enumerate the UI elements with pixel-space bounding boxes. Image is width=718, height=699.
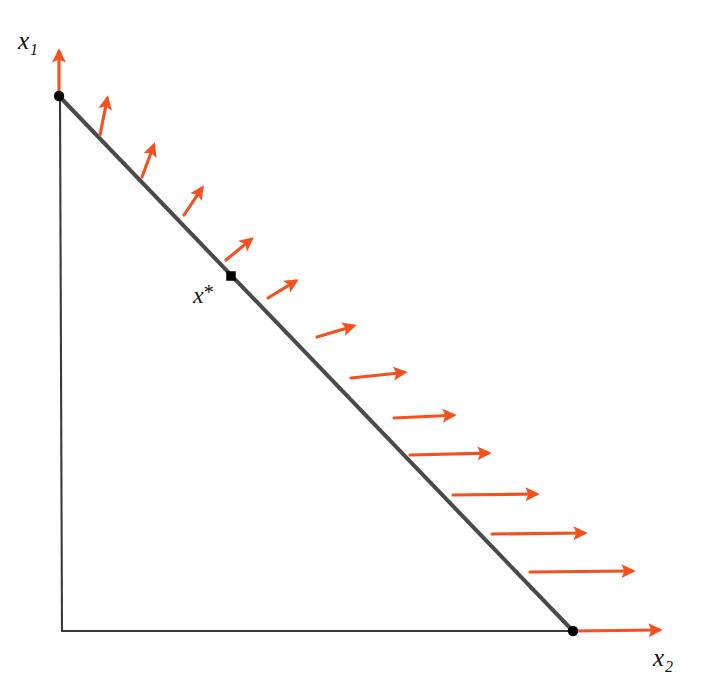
y-axis-line — [60, 97, 62, 631]
vertex-point-top — [54, 91, 64, 101]
x-axis-label-subscript: 2 — [665, 658, 673, 675]
normal-vector-arrows — [59, 52, 659, 631]
y-axis-label-base: x — [18, 27, 29, 54]
optimum-point-label: x* — [193, 283, 214, 307]
normal-arrow — [226, 240, 251, 260]
normal-arrow — [100, 99, 107, 135]
normal-arrow — [184, 188, 202, 215]
geometry-svg — [0, 0, 718, 699]
optimum-label-base: x — [193, 282, 204, 308]
y-axis-label: x1 — [18, 28, 37, 53]
normal-arrow — [573, 630, 659, 631]
normal-arrow — [142, 146, 154, 177]
normal-arrow — [351, 372, 404, 378]
diagram-canvas: x1 x2 x* — [0, 0, 718, 699]
normal-arrow — [394, 415, 453, 418]
constraint-boundary — [59, 96, 573, 631]
optimum-label-superscript: * — [204, 281, 214, 303]
x-axis-label-base: x — [653, 644, 664, 671]
constraint-line — [59, 96, 573, 631]
normal-arrow — [268, 281, 296, 298]
normal-arrow — [317, 326, 353, 337]
optimum-point — [226, 271, 236, 281]
normal-arrow — [492, 533, 584, 534]
normal-arrow — [530, 571, 632, 572]
normal-arrow — [453, 494, 536, 495]
vertex-point-bottom — [568, 626, 578, 636]
y-axis-label-subscript: 1 — [30, 41, 38, 58]
normal-arrow — [410, 453, 488, 455]
x-axis-label: x2 — [653, 645, 672, 670]
